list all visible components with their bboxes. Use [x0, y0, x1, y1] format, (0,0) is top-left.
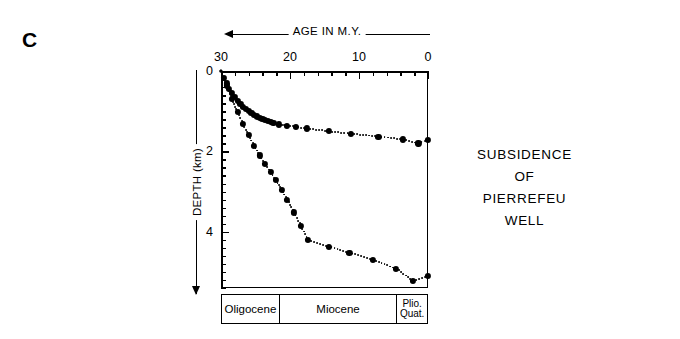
data-point: [305, 237, 311, 243]
stratigraphy-unit: Plio.Quat.: [396, 295, 427, 323]
x-tick-label: 0: [425, 50, 432, 64]
data-point: [326, 128, 332, 134]
axis-line-right: [427, 71, 428, 288]
connector-dot: [378, 261, 380, 263]
x-tick: [373, 71, 374, 76]
y-tick: [221, 143, 226, 144]
stratigraphy-unit-label: Miocene: [316, 303, 359, 315]
stratigraphy-unit-label: Quat.: [400, 309, 424, 320]
connector-dot: [356, 133, 358, 135]
connector-dot: [365, 134, 367, 136]
connector-dot: [223, 79, 225, 81]
stratigraphy-unit: Oligocene: [222, 295, 279, 323]
x-tick: [304, 71, 305, 76]
connector-dot: [312, 128, 314, 130]
connector-dot: [250, 140, 252, 142]
data-point: [303, 125, 309, 131]
figure-panel: C AGE IN M.Y. DEPTH (km) 3020100 024 Oli…: [0, 0, 680, 339]
y-tick: [221, 224, 226, 225]
connector-dot: [316, 242, 318, 244]
connector-dot: [300, 127, 302, 129]
connector-dot: [334, 131, 336, 133]
x-tick: [345, 71, 346, 76]
y-tick: [221, 192, 226, 193]
connector-dot: [408, 140, 410, 142]
x-tick: [414, 71, 415, 76]
y-tick: [221, 167, 226, 168]
y-tick-label: 0: [199, 64, 213, 78]
connector-dot: [411, 141, 413, 143]
figure-title-line: PIERREFEU: [447, 188, 602, 210]
data-point: [400, 136, 406, 142]
panel-label: C: [22, 29, 37, 50]
connector-dot: [222, 76, 224, 78]
connector-dot: [313, 241, 315, 243]
y-tick: [221, 208, 226, 209]
connector-dot: [304, 233, 306, 235]
connector-dot: [343, 132, 345, 134]
x-tick: [428, 71, 429, 79]
y-tick: [221, 95, 226, 96]
y-tick: [221, 184, 226, 185]
data-point: [370, 257, 376, 263]
connector-dot: [371, 135, 373, 137]
connector-dot: [418, 278, 420, 280]
connector-dot: [315, 129, 317, 131]
y-tick: [221, 175, 226, 176]
data-point: [284, 123, 290, 129]
data-point: [375, 133, 381, 139]
connector-dot: [387, 264, 389, 266]
x-tick-label: 10: [352, 50, 366, 64]
connector-dot: [359, 134, 361, 136]
x-tick: [400, 71, 401, 76]
x-tick-label: 20: [283, 50, 297, 64]
connector-dot: [221, 73, 223, 75]
connector-dot: [239, 117, 241, 119]
data-point: [326, 244, 332, 250]
connector-dot: [389, 266, 391, 268]
data-point: [425, 137, 431, 143]
x-tick: [235, 71, 236, 76]
x-tick: [249, 71, 250, 76]
y-tick: [221, 264, 226, 265]
connector-dot: [340, 132, 342, 134]
figure-title-line: SUBSIDENCE: [447, 144, 602, 166]
connector-dot: [337, 248, 339, 250]
connector-dot: [381, 262, 383, 264]
connector-dot: [421, 277, 423, 279]
left-arrow-icon: [224, 30, 233, 38]
axis-line-bottom: [221, 287, 428, 288]
connector-dot: [334, 247, 336, 249]
y-tick: [221, 151, 229, 152]
y-tick-label: 2: [199, 144, 213, 158]
x-tick-label: 30: [214, 50, 228, 64]
connector-dot: [321, 130, 323, 132]
x-tick: [276, 71, 277, 76]
stratigraphy-bar: OligoceneMiocenePlio.Quat.: [221, 294, 428, 324]
x-tick: [387, 71, 388, 76]
y-tick: [221, 127, 226, 128]
data-point: [348, 131, 354, 137]
connector-dot: [322, 244, 324, 246]
y-tick: [221, 159, 226, 160]
connector-dot: [366, 257, 368, 259]
connector-dot: [357, 254, 359, 256]
connector-dot: [245, 129, 247, 131]
x-axis-caption: AGE IN M.Y.: [224, 26, 430, 44]
connector-dot: [229, 93, 231, 95]
data-point: [276, 121, 282, 127]
y-tick: [221, 280, 226, 281]
connector-dot: [340, 249, 342, 251]
data-point: [292, 124, 298, 130]
y-tick-label: 4: [199, 225, 213, 239]
connector-dot: [318, 129, 320, 131]
connector-dot: [303, 231, 305, 233]
down-arrow-icon: [192, 286, 200, 295]
y-axis-caption: DEPTH (km): [188, 70, 206, 294]
data-point: [425, 273, 431, 279]
connector-dot: [342, 250, 344, 252]
axis-line-top: [221, 71, 428, 73]
connector-dot: [354, 253, 356, 255]
data-point: [346, 250, 352, 256]
y-tick: [221, 248, 226, 249]
